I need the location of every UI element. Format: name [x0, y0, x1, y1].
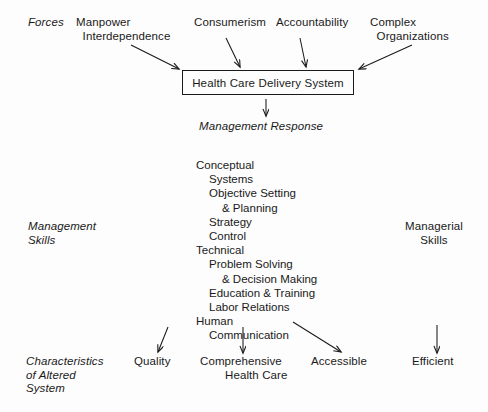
- outcome-accessible: Accessible: [311, 355, 367, 369]
- skill-item: Education & Training: [196, 286, 317, 300]
- row-label-characteristics: Characteristics of Altered System: [26, 355, 104, 396]
- force-complex-organizations: Complex Organizations: [370, 16, 449, 43]
- row-label-forces: Forces: [28, 16, 64, 30]
- arrow-accountability-to-system: [300, 38, 306, 67]
- skill-item: Control: [196, 229, 317, 243]
- central-node-label: Health Care Delivery System: [192, 77, 344, 89]
- skill-item: & Decision Making: [196, 272, 317, 286]
- skill-item: Problem Solving: [196, 257, 317, 271]
- outcome-quality: Quality: [134, 355, 171, 369]
- skill-item: Objective Setting: [196, 186, 317, 200]
- skill-item: Technical: [196, 243, 317, 257]
- row-label-managerial-skills: Managerial Skills: [396, 220, 472, 247]
- arrow-consumerism-to-system: [226, 38, 240, 67]
- outcome-health-care: Health Care: [225, 369, 287, 383]
- force-accountability: Accountability: [276, 16, 348, 30]
- central-node-health-care-delivery-system: Health Care Delivery System: [182, 70, 354, 95]
- skill-item: Labor Relations: [196, 300, 317, 314]
- skill-item: Conceptual: [196, 158, 317, 172]
- outcome-efficient: Efficient: [412, 355, 454, 369]
- outcome-comprehensive: Comprehensive: [200, 355, 282, 369]
- skill-item: & Planning: [196, 201, 317, 215]
- arrow-manpower-to-system: [131, 45, 179, 69]
- skill-item: Human: [196, 314, 317, 328]
- skill-item: Communication: [196, 328, 317, 342]
- arrow-complex-organizations-to-system: [359, 45, 412, 69]
- diagram-canvas: Forces Manpower Interdependence Consumer…: [0, 0, 488, 412]
- row-label-management-skills: Management Skills: [28, 220, 96, 247]
- arrow-skills-to-quality: [158, 327, 168, 352]
- skills-list: Conceptual Systems Objective Setting & P…: [196, 158, 317, 343]
- force-consumerism: Consumerism: [194, 16, 266, 30]
- skill-item: Systems: [196, 172, 317, 186]
- management-response-label: Management Response: [199, 120, 323, 134]
- skill-item: Strategy: [196, 215, 317, 229]
- force-manpower-interdependence: Manpower Interdependence: [76, 16, 170, 43]
